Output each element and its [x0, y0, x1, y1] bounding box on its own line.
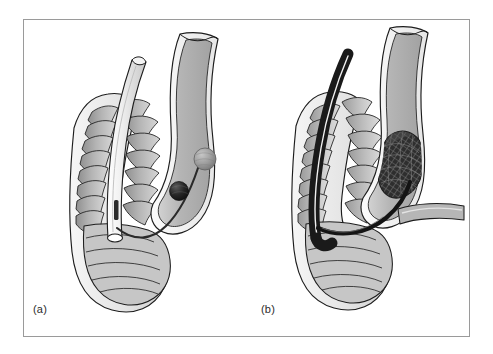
- panel-a-label: (a): [33, 303, 47, 315]
- figure-frame: [23, 19, 470, 337]
- panel-b-label: (b): [261, 303, 275, 315]
- figure-root: (a) (b): [0, 0, 493, 354]
